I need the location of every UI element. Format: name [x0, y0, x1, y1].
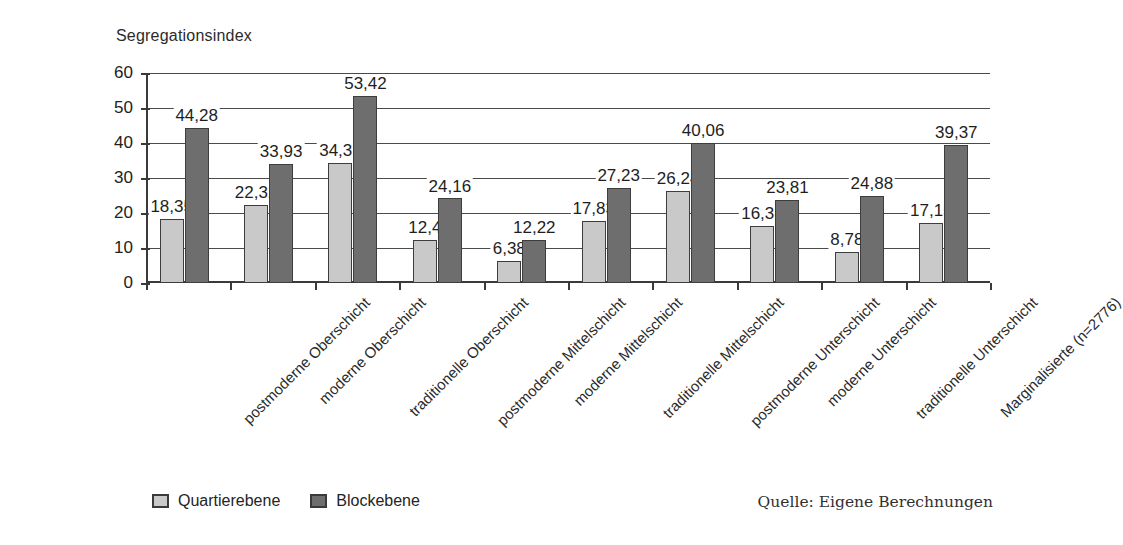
source-note: Quelle: Eigene Berechnungen — [758, 493, 993, 511]
bar-group: 12,424,16 — [399, 73, 483, 283]
x-tick-mark — [737, 283, 739, 290]
bar-group: 18,3544,28 — [146, 73, 230, 283]
bar[interactable] — [269, 164, 293, 283]
x-tick-mark — [230, 283, 232, 290]
bar[interactable] — [353, 96, 377, 283]
x-axis-category-label: moderne Mittelschicht — [570, 294, 685, 409]
bar-value-label: 40,06 — [680, 122, 727, 140]
x-axis-category-label-text: moderne Mittelschicht — [570, 294, 685, 409]
bar-group: 22,3233,93 — [230, 73, 314, 283]
bar-group: 6,3812,22 — [484, 73, 568, 283]
x-tick-mark — [146, 283, 148, 290]
y-tick-label: 30 — [99, 169, 133, 186]
bar[interactable] — [750, 226, 774, 283]
x-axis-category-label: moderne Oberschicht — [316, 294, 429, 407]
y-axis-title: Segregationsindex — [116, 27, 252, 45]
bar-value-label: 44,28 — [173, 107, 220, 125]
x-tick-mark — [484, 283, 486, 290]
bar[interactable] — [413, 240, 437, 283]
legend-label: Blockebene — [336, 492, 420, 510]
bar-group: 17,1539,37 — [906, 73, 990, 283]
bar[interactable] — [775, 200, 799, 283]
legend-item[interactable]: Blockebene — [310, 492, 420, 510]
bar-value-label: 53,42 — [342, 75, 389, 93]
y-tick-label: 0 — [99, 274, 133, 291]
bar[interactable] — [522, 240, 546, 283]
bar[interactable] — [860, 196, 884, 283]
bar[interactable] — [160, 219, 184, 283]
x-tick-mark — [568, 283, 570, 290]
bar-group: 16,3823,81 — [737, 73, 821, 283]
chart-plot-area: 0102030405060 18,3544,2822,3233,9334,315… — [146, 73, 990, 283]
y-tick-label: 20 — [99, 204, 133, 221]
bar[interactable] — [691, 143, 715, 283]
bar[interactable] — [919, 223, 943, 283]
bar-group: 17,8327,23 — [568, 73, 652, 283]
bar[interactable] — [835, 252, 859, 283]
bar[interactable] — [582, 221, 606, 283]
bar-group: 34,3153,42 — [315, 73, 399, 283]
x-tick-mark — [315, 283, 317, 290]
bar-value-label: 27,23 — [595, 167, 642, 185]
bar-value-label: 12,22 — [511, 219, 558, 237]
bar-value-label: 24,16 — [427, 178, 474, 196]
bar-value-label: 23,81 — [764, 179, 811, 197]
legend-swatch-icon — [152, 494, 169, 508]
x-tick-mark — [652, 283, 654, 290]
bar-value-label: 33,93 — [258, 143, 305, 161]
chart-legend: QuartierebeneBlockebene — [152, 492, 420, 510]
x-tick-mark — [821, 283, 823, 290]
legend-swatch-icon — [310, 494, 327, 508]
bar-group: 26,2440,06 — [652, 73, 736, 283]
bar-value-label: 39,37 — [933, 124, 980, 142]
bar[interactable] — [497, 261, 521, 283]
bar-value-label: 24,88 — [849, 175, 896, 193]
y-tick-label: 40 — [99, 134, 133, 151]
bar-group: 8,7824,88 — [821, 73, 905, 283]
bar[interactable] — [944, 145, 968, 283]
bar[interactable] — [185, 128, 209, 283]
bar[interactable] — [666, 191, 690, 283]
x-axis-category-label: moderne Unterschicht — [823, 294, 939, 410]
x-tick-mark — [990, 283, 992, 290]
x-tick-mark — [906, 283, 908, 290]
x-axis-category-label-text: moderne Unterschicht — [823, 294, 939, 410]
legend-label: Quartierebene — [178, 492, 280, 510]
legend-item[interactable]: Quartierebene — [152, 492, 280, 510]
bar[interactable] — [244, 205, 268, 283]
y-tick-label: 50 — [99, 99, 133, 116]
x-tick-mark — [399, 283, 401, 290]
y-tick-label: 10 — [99, 239, 133, 256]
y-tick-label: 60 — [99, 64, 133, 81]
bar[interactable] — [328, 163, 352, 283]
x-axis-category-label-text: moderne Oberschicht — [316, 294, 429, 407]
bar[interactable] — [438, 198, 462, 283]
bar[interactable] — [607, 188, 631, 283]
